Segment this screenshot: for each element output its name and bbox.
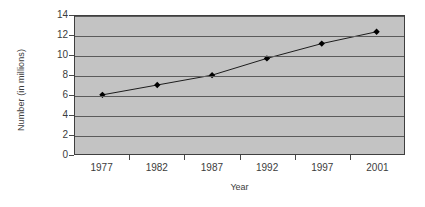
x-axis-tick-label: 1982: [129, 161, 185, 175]
gridline: [75, 56, 404, 57]
y-axis-tick-label: 14: [46, 9, 68, 21]
x-axis-tick-mark: [184, 155, 185, 160]
y-axis-tick-labels: 02468101214: [46, 15, 68, 155]
series-line-1: [75, 16, 404, 154]
series-polyline: [102, 32, 376, 95]
gridline: [75, 36, 404, 37]
plot-area: [74, 15, 405, 155]
y-axis-tick-mark: [69, 55, 74, 56]
y-axis-tick-label: 2: [46, 129, 68, 141]
data-point-marker: [319, 40, 325, 46]
gridline: [75, 136, 404, 137]
x-axis-tick-mark: [295, 155, 296, 160]
x-axis-tick-labels: 197719821987199219972001: [74, 161, 405, 175]
y-axis-tick-mark: [69, 75, 74, 76]
x-axis-tick-mark: [240, 155, 241, 160]
gridline: [75, 16, 404, 17]
y-axis-title: Number (in millions): [14, 5, 28, 175]
y-axis-tick-label: 12: [46, 29, 68, 41]
x-axis-tick-mark: [129, 155, 130, 160]
x-axis-title: Year: [74, 181, 405, 193]
x-axis-tick-label: 1997: [294, 161, 350, 175]
data-point-marker: [373, 29, 379, 35]
gridline: [75, 76, 404, 77]
x-axis-tick-mark: [350, 155, 351, 160]
y-axis-tick-mark: [69, 135, 74, 136]
x-axis-tick-label: 2001: [349, 161, 405, 175]
x-axis-tick-label: 1992: [239, 161, 295, 175]
y-axis-tick-label: 10: [46, 49, 68, 61]
y-axis-tick-label: 6: [46, 89, 68, 101]
y-axis-tick-label: 0: [46, 149, 68, 161]
x-axis-tick-label: 1977: [74, 161, 130, 175]
data-point-marker: [154, 82, 160, 88]
gridline: [75, 116, 404, 117]
y-axis-tick-label: 8: [46, 69, 68, 81]
y-axis-tick-mark: [69, 95, 74, 96]
y-axis-tick-label: 4: [46, 109, 68, 121]
y-axis-tick-mark: [69, 155, 74, 156]
line-chart: Number (in millions) 02468101214 1977198…: [0, 0, 425, 207]
y-axis-tick-mark: [69, 115, 74, 116]
x-axis-tick-label: 1987: [184, 161, 240, 175]
y-axis-tick-mark: [69, 15, 74, 16]
gridline: [75, 96, 404, 97]
y-axis-tick-mark: [69, 35, 74, 36]
